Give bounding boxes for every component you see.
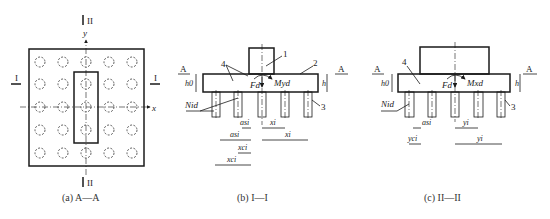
svg-text:h: h bbox=[322, 79, 326, 88]
column-c bbox=[420, 47, 489, 74]
svg-text:xi: xi bbox=[269, 118, 276, 127]
svg-text:h: h bbox=[515, 79, 519, 88]
section-mark-left: I bbox=[15, 73, 18, 83]
svg-text:Fd: Fd bbox=[249, 80, 260, 90]
panel-a-plan: x y II II I I (a) A—A bbox=[11, 15, 160, 204]
svg-text:yci: yci bbox=[407, 134, 417, 143]
panel-b-section: 1 2 3 4 Fd Myd Nid h0 h A A asi xi asi x… bbox=[178, 44, 348, 204]
svg-text:4: 4 bbox=[402, 57, 407, 67]
svg-text:Myd: Myd bbox=[273, 78, 290, 88]
section-mark-right: I bbox=[154, 73, 157, 83]
y-axis-label: y bbox=[82, 28, 87, 38]
svg-text:yi: yi bbox=[476, 134, 483, 143]
panel-c-section: 4 3 Fd Mxd Nid h0 h A A asi yi yci yi (c… bbox=[372, 42, 537, 204]
caption-a: (a) A—A bbox=[62, 192, 100, 204]
svg-text:A: A bbox=[180, 64, 187, 74]
section-mark-top: II bbox=[87, 16, 93, 26]
svg-text:asi: asi bbox=[240, 118, 249, 127]
svg-text:A: A bbox=[526, 64, 533, 74]
svg-text:Fd: Fd bbox=[441, 80, 452, 90]
svg-text:asi: asi bbox=[230, 130, 239, 139]
svg-text:xci: xci bbox=[226, 155, 236, 164]
svg-text:h0: h0 bbox=[185, 79, 193, 88]
svg-text:Nid: Nid bbox=[184, 100, 199, 110]
svg-text:xci: xci bbox=[237, 143, 247, 152]
svg-text:2: 2 bbox=[313, 58, 318, 68]
svg-text:Nid: Nid bbox=[380, 99, 395, 109]
svg-text:1: 1 bbox=[283, 49, 288, 59]
caption-c: (c) II—II bbox=[424, 192, 461, 204]
caption-b: (b) I—I bbox=[237, 192, 268, 204]
svg-text:3: 3 bbox=[511, 102, 516, 112]
svg-text:asi: asi bbox=[422, 118, 431, 127]
svg-text:A: A bbox=[338, 64, 345, 74]
svg-text:xi: xi bbox=[284, 130, 291, 139]
cap-b bbox=[203, 74, 318, 92]
svg-text:3: 3 bbox=[321, 102, 326, 112]
svg-text:A: A bbox=[374, 64, 381, 74]
section-mark-bottom: II bbox=[87, 178, 93, 188]
svg-text:4: 4 bbox=[221, 59, 226, 69]
x-axis-label: x bbox=[151, 103, 156, 113]
svg-text:Mxd: Mxd bbox=[466, 78, 483, 88]
svg-text:yi: yi bbox=[462, 118, 469, 127]
svg-text:h0: h0 bbox=[381, 79, 389, 88]
pile-cap-diagram: x y II II I I (a) A—A 1 2 3 4 bbox=[0, 0, 550, 219]
column-b bbox=[249, 48, 274, 74]
